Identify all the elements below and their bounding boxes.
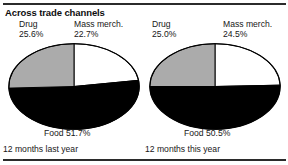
slice-label-drug-pct: 25.0% — [152, 29, 176, 39]
pie-slice — [215, 44, 280, 87]
slice-label-drug-name: Drug — [19, 19, 38, 29]
pie-slice — [150, 85, 280, 129]
slice-label-food-last-year: Food 51.7% — [44, 128, 90, 138]
period-label-this-year: 12 months this year — [145, 144, 220, 154]
pie-slice — [9, 44, 74, 88]
pie-panel-last-year: Drug 25.6% Mass merch. 22.7% Food 51.7% … — [0, 0, 146, 165]
slice-label-drug-name: Drug — [152, 19, 171, 29]
slice-label-drug-pct: 25.6% — [19, 29, 43, 39]
slice-label-drug-last-year: Drug 25.6% — [19, 19, 43, 39]
slice-label-mass-name: Mass merch. — [223, 19, 272, 29]
pie-panel-this-year: Drug 25.0% Mass merch. 24.5% Food 50.5% … — [143, 0, 288, 165]
slice-label-mass-merch-this-year: Mass merch. 24.5% — [223, 19, 272, 39]
slice-label-mass-pct: 22.7% — [74, 29, 123, 39]
pie-chart-this-year — [149, 43, 281, 130]
slice-label-mass-name: Mass merch. — [74, 19, 123, 29]
slice-label-drug-this-year: Drug 25.0% — [152, 19, 176, 39]
pie-svg-last-year — [8, 43, 140, 130]
pie-chart-last-year — [8, 43, 140, 130]
slice-label-mass-pct: 24.5% — [223, 29, 272, 39]
pie-slice — [150, 44, 215, 87]
bottom-divider-rule — [3, 159, 286, 161]
pie-slice — [74, 44, 139, 87]
slice-label-food-this-year: Food 50.5% — [184, 128, 230, 138]
period-label-last-year: 12 months last year — [3, 144, 78, 154]
pie-svg-this-year — [149, 43, 281, 130]
chart-figure: Across trade channels Drug 25.6% Mass me… — [0, 0, 288, 165]
slice-label-mass-merch-last-year: Mass merch. 22.7% — [74, 19, 123, 39]
